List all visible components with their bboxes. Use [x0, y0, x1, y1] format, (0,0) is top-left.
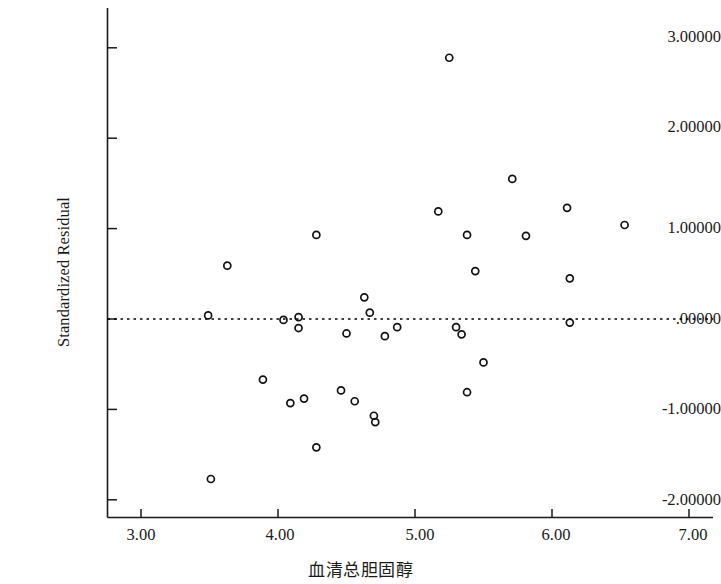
data-point: [295, 314, 302, 321]
data-point: [343, 330, 350, 337]
data-point: [207, 476, 214, 483]
data-point-group: [205, 54, 628, 482]
data-point: [509, 175, 516, 182]
data-point: [313, 231, 320, 238]
data-point: [259, 376, 266, 383]
data-point: [464, 231, 471, 238]
y-axis-ticks: [108, 48, 118, 500]
data-point: [280, 316, 287, 323]
data-point: [472, 268, 479, 275]
data-point: [522, 232, 529, 239]
data-point: [566, 275, 573, 282]
data-point: [381, 333, 388, 340]
data-point: [205, 312, 212, 319]
data-point: [338, 387, 345, 394]
data-point: [224, 262, 231, 269]
data-point: [453, 324, 460, 331]
data-point: [458, 331, 465, 338]
data-point: [301, 395, 308, 402]
data-point: [351, 398, 358, 405]
data-point: [480, 359, 487, 366]
data-point: [621, 221, 628, 228]
data-point: [295, 325, 302, 332]
data-point: [564, 204, 571, 211]
data-point: [435, 208, 442, 215]
scatter-plot-figure: Standardized Residual 血清总胆固醇 3.00000 2.0…: [0, 0, 721, 584]
data-point: [394, 324, 401, 331]
data-point: [313, 444, 320, 451]
x-axis-ticks: [141, 509, 689, 518]
plot-canvas: [0, 0, 721, 584]
data-point: [464, 389, 471, 396]
data-point: [446, 54, 453, 61]
data-point: [287, 400, 294, 407]
data-point: [566, 319, 573, 326]
data-point: [366, 309, 373, 316]
data-point: [361, 294, 368, 301]
axis-spines: [108, 8, 714, 518]
